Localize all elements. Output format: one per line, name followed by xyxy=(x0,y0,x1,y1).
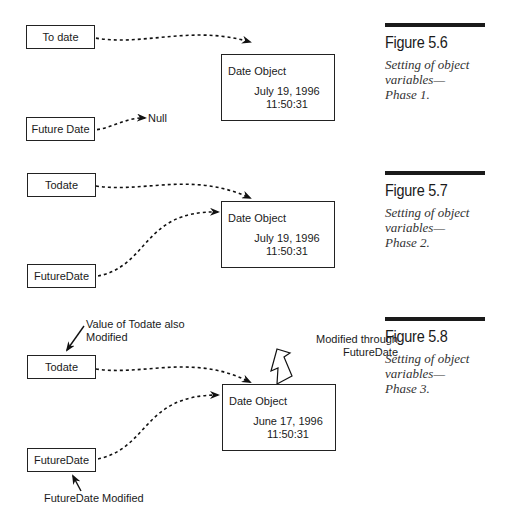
solid-arrow-icon xyxy=(67,326,84,350)
figure-caption: Setting of object variables— Phase 3. xyxy=(385,351,485,396)
object-date: June 17, 1996 xyxy=(241,415,335,428)
divider xyxy=(385,317,485,321)
variable-label: Todate xyxy=(45,179,78,191)
object-title: Date Object xyxy=(229,395,287,407)
variable-label: FutureDate xyxy=(34,454,89,466)
object-time: 11:50:31 xyxy=(240,245,334,258)
figure-number: Figure 5.8 xyxy=(385,327,470,347)
dashed-curved-arrow-icon xyxy=(92,395,218,460)
date-object-box: Date Object July 19, 1996 11:50:31 xyxy=(221,201,335,268)
variable-futuredate-box: Future Date xyxy=(26,117,95,141)
figure-caption: Setting of object variables— Phase 1. xyxy=(385,57,485,102)
solid-arrow-icon xyxy=(73,476,81,491)
futuredate-modified-note: FutureDate Modified xyxy=(44,492,144,505)
figure-5-7-caption-block: Figure 5.7 Setting of object variables— … xyxy=(385,171,485,250)
figure-5-6-caption-block: Figure 5.6 Setting of object variables— … xyxy=(385,23,485,102)
dashed-curved-arrow-icon xyxy=(90,367,250,382)
variable-label: Todate xyxy=(45,361,78,373)
null-label: Null xyxy=(148,112,167,125)
figure-number: Figure 5.7 xyxy=(385,181,470,201)
date-object-box: Date Object July 19, 1996 11:50:31 xyxy=(221,54,335,121)
figure-caption: Setting of object variables— Phase 2. xyxy=(385,205,485,250)
object-title: Date Object xyxy=(228,212,286,224)
variable-label: Future Date xyxy=(31,123,89,135)
object-title: Date Object xyxy=(228,65,286,77)
figure-5-8-caption-block: Figure 5.8 Setting of object variables— … xyxy=(385,317,485,396)
object-date: July 19, 1996 xyxy=(240,232,334,245)
dashed-curved-arrow-icon xyxy=(91,118,145,130)
variable-todate-box: Todate xyxy=(27,355,96,379)
dashed-curved-arrow-icon xyxy=(90,35,250,42)
todate-modified-note: Value of Todate also Modified xyxy=(86,318,185,344)
divider xyxy=(385,23,485,27)
variable-todate-box: Todate xyxy=(27,173,96,197)
variable-futuredate-box: FutureDate xyxy=(27,264,96,288)
dashed-curved-arrow-icon xyxy=(92,212,218,277)
variable-label: FutureDate xyxy=(34,270,89,282)
variable-label: To date xyxy=(42,31,78,43)
date-object-box: Date Object June 17, 1996 11:50:31 xyxy=(222,384,336,451)
modified-through-note: Modified through FutureDate xyxy=(280,333,398,359)
variable-todate-box: To date xyxy=(26,25,95,49)
variable-futuredate-box: FutureDate xyxy=(27,448,96,472)
divider xyxy=(385,171,485,175)
object-time: 11:50:31 xyxy=(240,98,334,111)
object-time: 11:50:31 xyxy=(241,428,335,441)
object-date: July 19, 1996 xyxy=(240,85,334,98)
dashed-curved-arrow-icon xyxy=(90,184,250,198)
figure-number: Figure 5.6 xyxy=(385,33,470,53)
